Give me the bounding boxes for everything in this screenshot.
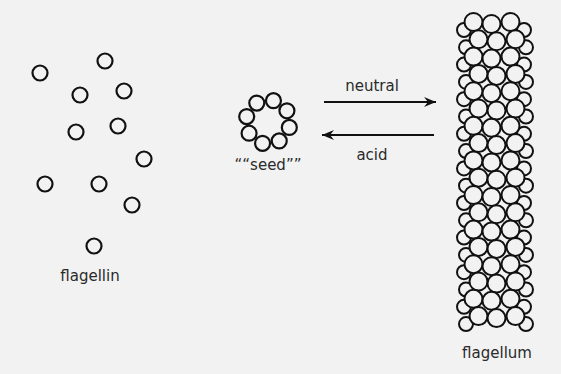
flagellin-monomer: [98, 54, 113, 69]
flagellum-subunit: [483, 188, 501, 206]
flagellum-subunit: [507, 169, 525, 187]
flagellum-filament: [457, 13, 533, 331]
flagellum-subunit: [470, 100, 488, 118]
flagellum-subunit: [507, 238, 525, 256]
reaction-arrows: [322, 97, 436, 140]
seed-ring: [239, 93, 297, 151]
flagellum-label: flagellum: [462, 344, 532, 362]
flagellin-monomer: [125, 198, 140, 213]
seed-subunit: [255, 136, 270, 151]
flagellin-monomer: [111, 119, 126, 134]
flagellum-subunit: [488, 136, 506, 154]
flagellum-subunit: [488, 240, 506, 258]
flagellum-subunit: [488, 102, 506, 120]
flagellin-assembly-diagram: flagellin ““seed”” neutral acid flagellu…: [0, 0, 561, 374]
flagellum-subunit: [470, 238, 488, 256]
flagellum-subunit: [470, 169, 488, 187]
seed-subunit: [272, 133, 287, 148]
flagellum-subunit: [502, 82, 520, 100]
flagellum-subunit: [502, 221, 520, 239]
flagellum-subunit: [502, 151, 520, 169]
flagellum-subunit: [502, 290, 520, 308]
flagellum-subunit: [470, 307, 488, 325]
flagellum-subunit: [507, 65, 525, 83]
flagellum-subunit: [465, 221, 483, 239]
flagellum-subunit: [465, 151, 483, 169]
flagellum-subunit: [465, 13, 483, 31]
seed-subunit: [242, 126, 257, 141]
flagellum-subunit: [507, 203, 525, 221]
flagellum-subunit: [502, 255, 520, 273]
flagellum-subunit: [488, 275, 506, 293]
flagellum-subunit: [502, 117, 520, 135]
flagellum-subunit: [465, 255, 483, 273]
flagellum-subunit: [507, 30, 525, 48]
flagellin-monomer: [33, 66, 48, 81]
flagellin-monomer: [69, 125, 84, 140]
flagellum-subunit: [483, 153, 501, 171]
flagellum-subunit: [483, 223, 501, 241]
flagellin-monomer: [87, 239, 102, 254]
flagellum-subunit: [507, 100, 525, 118]
flagellum-subunit: [488, 171, 506, 189]
flagellin-monomer: [92, 177, 107, 192]
flagellum-subunit: [502, 186, 520, 204]
flagellum-subunit: [507, 307, 525, 325]
flagellin-monomer: [137, 152, 152, 167]
flagellum-subunit: [488, 309, 506, 327]
flagellum-subunit: [483, 119, 501, 137]
acid-label: acid: [356, 146, 387, 164]
flagellum-subunit: [470, 65, 488, 83]
neutral-label: neutral: [345, 77, 399, 95]
flagellin-monomer: [38, 177, 53, 192]
seed-subunit: [249, 96, 264, 111]
seed-subunit: [266, 93, 281, 108]
seed-subunit: [282, 120, 297, 135]
flagellin-monomer: [73, 88, 88, 103]
flagellum-subunit: [502, 13, 520, 31]
flagellum-subunit: [470, 134, 488, 152]
flagellum-subunit: [465, 290, 483, 308]
flagellin-label: flagellin: [60, 267, 119, 285]
flagellum-subunit: [465, 82, 483, 100]
flagellum-subunit: [483, 84, 501, 102]
flagellum-subunit: [483, 257, 501, 275]
flagellum-subunit: [483, 15, 501, 33]
flagellum-subunit: [465, 186, 483, 204]
flagellum-subunit: [465, 48, 483, 66]
flagellum-subunit: [483, 50, 501, 68]
flagellum-subunit: [470, 30, 488, 48]
seed-subunit: [239, 109, 254, 124]
seed-label: ““seed””: [235, 156, 302, 174]
flagellum-subunit: [470, 203, 488, 221]
flagellin-monomer: [117, 84, 132, 99]
flagellum-subunit: [483, 292, 501, 310]
seed-subunit: [279, 103, 294, 118]
flagellum-subunit: [502, 48, 520, 66]
diagram-canvas: flagellin ““seed”” neutral acid flagellu…: [0, 0, 561, 374]
flagellin-monomers: [33, 54, 152, 254]
flagellum-subunit: [488, 67, 506, 85]
flagellum-subunit: [488, 32, 506, 50]
flagellum-subunit: [470, 273, 488, 291]
flagellum-subunit: [465, 117, 483, 135]
flagellum-subunit: [488, 205, 506, 223]
flagellum-subunit: [507, 273, 525, 291]
flagellum-subunit: [507, 134, 525, 152]
